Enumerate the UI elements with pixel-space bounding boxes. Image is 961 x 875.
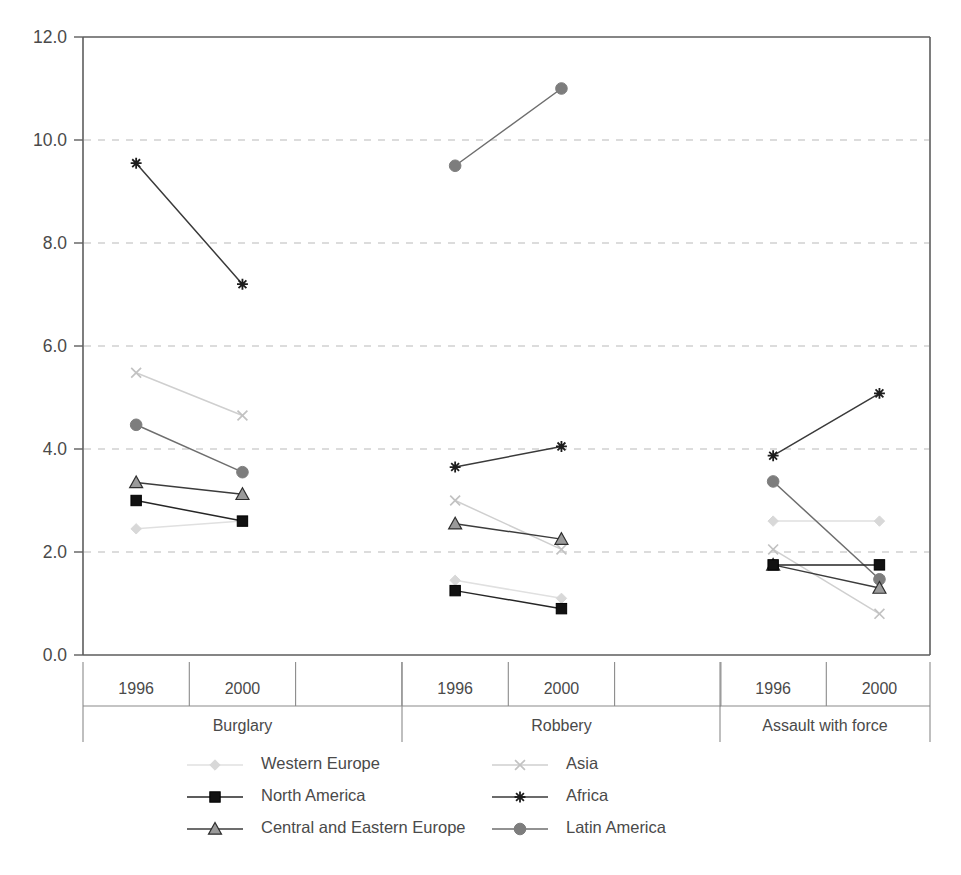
y-axis-ticks: 0.02.04.06.08.010.012.0 [33, 27, 83, 665]
series-line-north-america-burglary [136, 501, 242, 522]
datapoint-western-europe-burglary-1996 [131, 524, 141, 534]
series-central-and-eastern-europe [130, 476, 886, 593]
datapoint-western-europe-assault-with-force-2000 [874, 516, 884, 526]
datapoint-asia-assault-with-force-2000 [875, 609, 885, 619]
series-line-central-and-eastern-europe-assault-with-force [773, 565, 879, 588]
x-group-label-burglary: Burglary [213, 717, 273, 734]
chart-legend: Western EuropeNorth AmericaCentral and E… [187, 754, 667, 836]
legend-label-latin-america: Latin America [566, 818, 667, 836]
legend-item-western-europe[interactable]: Western Europe [187, 754, 380, 772]
datapoint-asia-burglary-2000 [238, 411, 248, 421]
series-line-asia-burglary [136, 373, 242, 416]
datapoint-north-america-robbery-2000 [556, 603, 566, 613]
x-tick-label-assault-with-force-2000: 2000 [862, 680, 898, 697]
legend-label-asia: Asia [566, 754, 599, 772]
datapoint-africa-robbery-2000 [556, 441, 567, 452]
y-tick-label-6.0: 6.0 [43, 336, 68, 356]
y-tick-label-8.0: 8.0 [43, 233, 68, 253]
datapoint-central-and-eastern-europe-burglary-1996 [130, 476, 143, 488]
datapoint-central-and-eastern-europe-robbery-1996 [449, 517, 462, 529]
x-tick-label-burglary-1996: 1996 [118, 680, 154, 697]
legend-item-asia[interactable]: Asia [492, 754, 599, 772]
datapoint-africa-robbery-1996 [450, 462, 461, 473]
datapoint-north-america-assault-with-force-2000 [874, 560, 884, 570]
datapoint-latin-america-robbery-2000 [556, 83, 568, 95]
series-line-western-europe-robbery [455, 580, 561, 598]
legend-label-africa: Africa [566, 786, 609, 804]
x-tick-label-burglary-2000: 2000 [225, 680, 261, 697]
datapoint-north-america-assault-with-force-1996 [768, 560, 778, 570]
legend-marker-north-america [210, 792, 220, 802]
datapoint-latin-america-assault-with-force-1996 [767, 476, 779, 488]
legend-marker-africa [515, 792, 526, 803]
y-tick-label-0.0: 0.0 [43, 645, 68, 665]
datapoint-north-america-burglary-2000 [237, 516, 247, 526]
legend-label-central-and-eastern-europe: Central and Eastern Europe [261, 818, 466, 836]
series-line-africa-burglary [136, 163, 242, 284]
x-axis-label-table: 19962000Burglary19962000Robbery19962000A… [83, 662, 930, 742]
line-chart-figure: 0.02.04.06.08.010.012.0 19962000Burglary… [0, 0, 961, 875]
x-tick-label-robbery-2000: 2000 [544, 680, 580, 697]
series-line-central-and-eastern-europe-burglary [136, 482, 242, 494]
data-series-layer [130, 83, 886, 619]
x-group-label-robbery: Robbery [531, 717, 591, 734]
datapoint-north-america-burglary-1996 [131, 495, 141, 505]
datapoint-africa-assault-with-force-2000 [874, 388, 885, 399]
datapoint-africa-burglary-2000 [237, 279, 248, 290]
series-line-central-and-eastern-europe-robbery [455, 524, 561, 539]
datapoint-latin-america-burglary-1996 [130, 419, 142, 431]
datapoint-asia-assault-with-force-1996 [768, 544, 778, 554]
datapoint-latin-america-burglary-2000 [237, 466, 249, 478]
series-line-western-europe-burglary [136, 521, 242, 529]
datapoint-africa-assault-with-force-1996 [768, 450, 779, 461]
legend-item-north-america[interactable]: North America [187, 786, 366, 804]
x-tick-label-assault-with-force-1996: 1996 [755, 680, 791, 697]
legend-marker-latin-america [514, 823, 526, 835]
legend-item-latin-america[interactable]: Latin America [492, 818, 667, 836]
datapoint-asia-robbery-1996 [450, 496, 460, 506]
datapoint-north-america-robbery-1996 [450, 585, 460, 595]
y-tick-label-2.0: 2.0 [43, 542, 68, 562]
legend-item-central-and-eastern-europe[interactable]: Central and Eastern Europe [187, 818, 466, 836]
x-group-label-assault-with-force: Assault with force [762, 717, 887, 734]
legend-item-africa[interactable]: Africa [492, 786, 609, 804]
chart-container: 0.02.04.06.08.010.012.0 19962000Burglary… [0, 0, 961, 875]
legend-label-western-europe: Western Europe [261, 754, 380, 772]
series-north-america [131, 495, 885, 614]
datapoint-asia-robbery-2000 [557, 544, 567, 554]
series-line-north-america-robbery [455, 591, 561, 609]
legend-marker-western-europe [210, 760, 220, 770]
y-tick-label-12.0: 12.0 [33, 27, 67, 47]
series-africa [131, 158, 885, 473]
series-line-asia-robbery [455, 501, 561, 550]
y-tick-label-4.0: 4.0 [43, 439, 68, 459]
datapoint-western-europe-assault-with-force-1996 [768, 516, 778, 526]
datapoint-latin-america-robbery-1996 [449, 160, 461, 172]
series-line-latin-america-robbery [455, 89, 561, 166]
series-latin-america [130, 83, 885, 585]
datapoint-western-europe-robbery-1996 [450, 575, 460, 585]
x-tick-label-robbery-1996: 1996 [437, 680, 473, 697]
series-line-asia-assault-with-force [773, 549, 879, 613]
legend-label-north-america: North America [261, 786, 366, 804]
datapoint-asia-burglary-1996 [131, 368, 141, 378]
datapoint-western-europe-robbery-2000 [556, 593, 566, 603]
datapoint-africa-burglary-1996 [131, 158, 142, 169]
y-tick-label-10.0: 10.0 [33, 130, 67, 150]
series-line-africa-assault-with-force [773, 393, 879, 455]
